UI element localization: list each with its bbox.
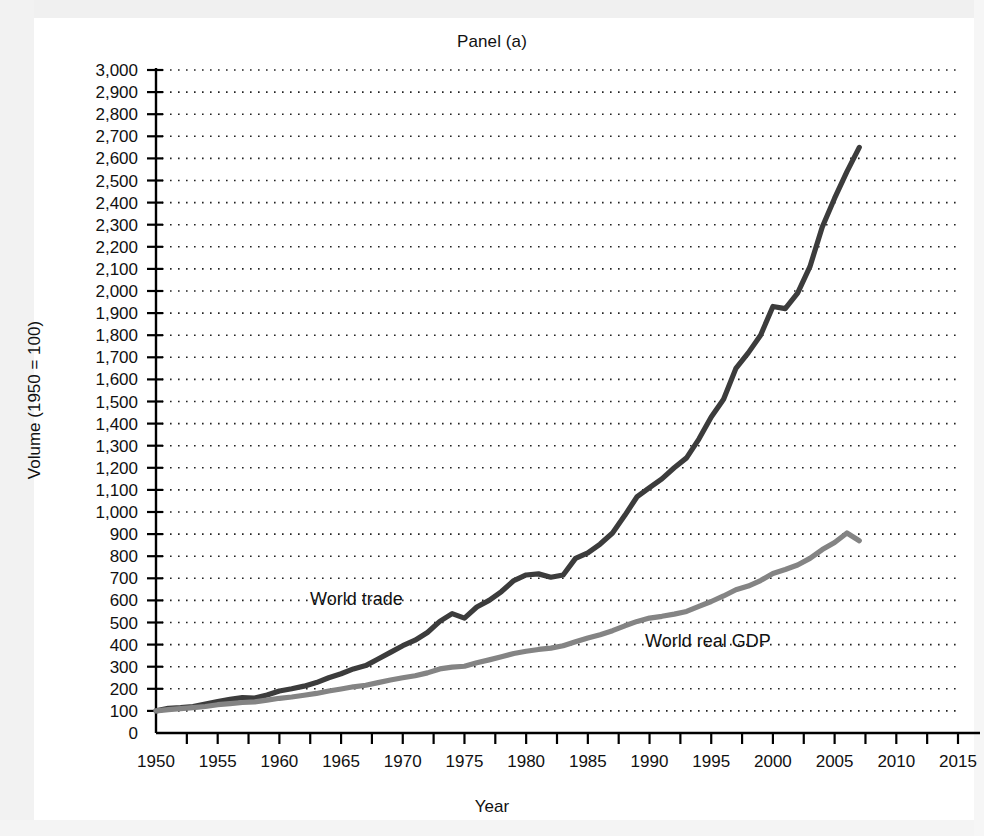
y-tick-label: 600 [110, 591, 138, 610]
y-tick-label: 1,800 [95, 326, 138, 345]
series-annotations: World tradeWorld real GDP [310, 589, 771, 651]
y-tick-label: 2,000 [95, 282, 138, 301]
line-chart-figure: Panel (a) Volume (1950 = 100) Year 01002… [0, 0, 984, 836]
y-tick-label: 2,400 [95, 194, 138, 213]
y-tick-label: 700 [110, 569, 138, 588]
x-tick-label: 1970 [384, 752, 422, 771]
y-tick-label: 2,100 [95, 260, 138, 279]
chart-plot-area: 01002003004005006007008009001,0001,1001,… [0, 0, 984, 836]
y-tick-label: 200 [110, 680, 138, 699]
x-tick-labels: 1950195519601965197019751980198519901995… [137, 752, 977, 771]
series-line [156, 533, 859, 711]
y-tick-label: 2,900 [95, 83, 138, 102]
x-tick-label: 1975 [446, 752, 484, 771]
y-tick-label: 800 [110, 547, 138, 566]
y-tick-label: 2,300 [95, 216, 138, 235]
series-line [156, 147, 859, 711]
y-tick-label: 400 [110, 636, 138, 655]
x-axis [156, 733, 980, 744]
y-tick-label: 1,700 [95, 348, 138, 367]
x-tick-label: 1950 [137, 752, 175, 771]
figure-page: Panel (a) Volume (1950 = 100) Year 01002… [0, 0, 984, 836]
y-tick-label: 1,300 [95, 437, 138, 456]
x-tick-label: 1985 [569, 752, 607, 771]
x-tick-label: 2005 [816, 752, 854, 771]
y-tick-label: 900 [110, 525, 138, 544]
x-tick-label: 1995 [692, 752, 730, 771]
y-tick-labels: 01002003004005006007008009001,0001,1001,… [95, 61, 138, 743]
x-tick-label: 1955 [199, 752, 237, 771]
x-tick-label: 1960 [260, 752, 298, 771]
y-tick-label: 1,500 [95, 393, 138, 412]
grid-lines [162, 70, 958, 711]
x-tick-label: 1965 [322, 752, 360, 771]
data-series [156, 147, 859, 711]
y-tick-label: 0 [129, 724, 138, 743]
y-tick-label: 3,000 [95, 61, 138, 80]
y-tick-label: 1,600 [95, 370, 138, 389]
x-tick-label: 1990 [631, 752, 669, 771]
y-tick-label: 2,800 [95, 105, 138, 124]
y-tick-label: 1,000 [95, 503, 138, 522]
y-tick-label: 1,400 [95, 415, 138, 434]
x-tick-label: 2015 [939, 752, 977, 771]
series-label-world-real-gdp: World real GDP [645, 631, 771, 651]
x-tick-label: 1980 [507, 752, 545, 771]
y-tick-label: 2,600 [95, 149, 138, 168]
y-tick-label: 2,700 [95, 127, 138, 146]
series-label-world-trade: World trade [310, 589, 403, 609]
y-tick-label: 1,900 [95, 304, 138, 323]
y-axis [147, 68, 163, 733]
y-tick-label: 500 [110, 614, 138, 633]
x-tick-label: 2010 [877, 752, 915, 771]
x-tick-label: 2000 [754, 752, 792, 771]
y-tick-label: 1,100 [95, 481, 138, 500]
y-tick-label: 1,200 [95, 459, 138, 478]
y-tick-label: 300 [110, 658, 138, 677]
y-tick-label: 100 [110, 702, 138, 721]
y-tick-label: 2,500 [95, 172, 138, 191]
y-tick-label: 2,200 [95, 238, 138, 257]
